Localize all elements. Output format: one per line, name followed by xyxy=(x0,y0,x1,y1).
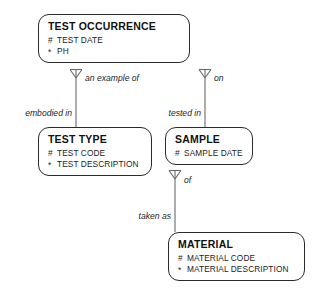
attribute-name: MATERIAL DESCRIPTION xyxy=(187,264,289,275)
attribute-row: # SAMPLE DATE xyxy=(175,148,245,159)
attribute-row: * MATERIAL DESCRIPTION xyxy=(178,264,297,275)
attribute-row: * PH xyxy=(48,46,182,57)
attribute-list: # TEST CODE * TEST DESCRIPTION xyxy=(48,148,144,170)
attribute-list: # SAMPLE DATE xyxy=(175,148,245,159)
entity-title: TEST OCCURRENCE xyxy=(48,20,182,33)
er-diagram-canvas: TEST OCCURRENCE # TEST DATE * PH TEST TY… xyxy=(0,0,315,289)
entity-sample[interactable]: SAMPLE # SAMPLE DATE xyxy=(165,127,253,165)
relationship-label-taken-as: taken as xyxy=(102,211,171,221)
uid-marker-icon: # xyxy=(178,253,187,264)
attribute-row: # TEST CODE xyxy=(48,148,144,159)
uid-marker-icon: # xyxy=(175,148,184,159)
relationship-line-occurrence-sample xyxy=(199,70,211,128)
attribute-name: TEST DATE xyxy=(57,35,103,46)
mandatory-marker-icon: * xyxy=(48,160,57,171)
attribute-name: PH xyxy=(57,46,69,57)
attribute-row: # MATERIAL CODE xyxy=(178,253,297,264)
uid-marker-icon: # xyxy=(48,148,57,159)
attribute-row: * TEST DESCRIPTION xyxy=(48,159,144,170)
entity-test-occurrence[interactable]: TEST OCCURRENCE # TEST DATE * PH xyxy=(38,14,190,63)
attribute-name: MATERIAL CODE xyxy=(187,253,255,264)
uid-marker-icon: # xyxy=(48,35,57,46)
relationship-label-on: on xyxy=(214,73,224,83)
relationship-label-of: of xyxy=(184,175,191,185)
entity-material[interactable]: MATERIAL # MATERIAL CODE * MATERIAL DESC… xyxy=(168,232,305,281)
relationship-label-tested-in: tested in xyxy=(130,108,201,118)
entity-title: MATERIAL xyxy=(178,238,297,251)
attribute-name: TEST CODE xyxy=(57,148,105,159)
relationship-line-occurrence-type xyxy=(70,70,82,128)
entity-title: SAMPLE xyxy=(175,133,245,146)
attribute-list: # TEST DATE * PH xyxy=(48,35,182,57)
entity-test-type[interactable]: TEST TYPE # TEST CODE * TEST DESCRIPTION xyxy=(38,127,152,176)
attribute-name: SAMPLE DATE xyxy=(184,148,243,159)
mandatory-marker-icon: * xyxy=(48,47,57,58)
attribute-name: TEST DESCRIPTION xyxy=(57,159,139,170)
entity-title: TEST TYPE xyxy=(48,133,144,146)
attribute-row: # TEST DATE xyxy=(48,35,182,46)
relationship-line-sample-material xyxy=(169,171,181,233)
attribute-list: # MATERIAL CODE * MATERIAL DESCRIPTION xyxy=(178,253,297,275)
relationship-label-embodied-in: embodied in xyxy=(0,108,72,118)
relationship-label-an-example-of: an example of xyxy=(85,73,139,83)
mandatory-marker-icon: * xyxy=(178,265,187,276)
